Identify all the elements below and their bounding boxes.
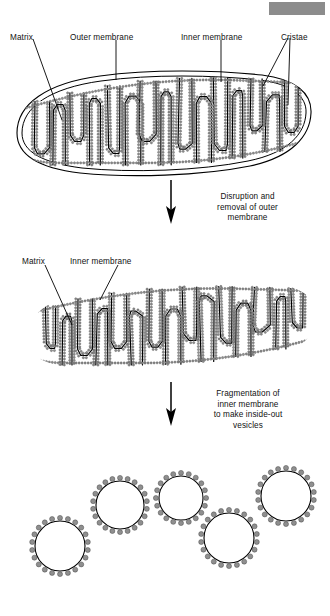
mitochondrion-diagram (0, 0, 330, 616)
vesicle (199, 507, 260, 568)
vesicle (153, 470, 208, 525)
vesicle (30, 515, 91, 576)
label-outer-membrane: Outer membrane (70, 33, 133, 42)
vesicle (91, 475, 150, 534)
step1-line1: Disruption and (190, 192, 305, 203)
arrow-fragmentation (166, 382, 176, 426)
vesicle (256, 465, 317, 526)
stage1-mitochondrion (17, 38, 311, 176)
label-matrix-stage2: Matrix (22, 257, 45, 266)
step-text-disruption: Disruption and removal of outer membrane (190, 192, 305, 224)
arrow-disruption (166, 180, 176, 224)
step1-line2: removal of outer (190, 203, 305, 214)
step2-line3: to make inside-out (188, 410, 308, 421)
step2-line1: Fragmentation of (188, 389, 308, 400)
step1-line3: membrane (190, 213, 305, 224)
inside-out-vesicles (30, 465, 317, 576)
stage2-inner-membrane (27, 265, 316, 372)
label-inner-membrane-stage1: Inner membrane (181, 33, 242, 42)
step2-line4: vesicles (188, 421, 308, 432)
label-cristae: Cristae (281, 33, 308, 42)
step-text-fragmentation: Fragmentation of inner membrane to make … (188, 389, 308, 431)
step2-line2: inner membrane (188, 400, 308, 411)
label-matrix-stage1: Matrix (10, 33, 33, 42)
figure-canvas: Matrix Outer membrane Inner membrane Cri… (0, 0, 330, 616)
label-inner-membrane-stage2: Inner membrane (70, 257, 131, 266)
